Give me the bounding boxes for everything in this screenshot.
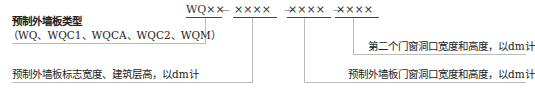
leader-horizontal-width-height <box>12 82 253 83</box>
opening-label: 预制外墙板门窗洞口宽度和高度，以dm计 <box>348 68 535 81</box>
type-options: （WQ、WQC1、WQCA、WQC2、WQM） <box>8 29 221 42</box>
leader-vertical-width-height <box>252 18 253 82</box>
width-height-label: 预制外墙板标志宽度、建筑层高，以dm计 <box>12 68 199 81</box>
leader-vertical-second-opening <box>353 18 354 54</box>
type-title: 预制外墙板类型 <box>12 15 82 28</box>
underline-second-opening <box>335 17 379 18</box>
code-segment-opening: ×××× <box>288 3 325 16</box>
leader-horizontal-second-opening <box>353 54 526 55</box>
second-opening-label: 第二个门窗洞口宽度和高度，以dm计 <box>368 40 535 53</box>
underline-width-height <box>233 17 277 18</box>
code-segment-width-height: ×××× <box>234 3 271 16</box>
code-segment-second-opening: ×××× <box>336 3 373 16</box>
leader-vertical-opening <box>304 18 305 82</box>
underline-type <box>186 17 222 18</box>
leader-horizontal-type <box>12 43 206 44</box>
underline-opening <box>287 17 331 18</box>
leader-horizontal-opening <box>304 82 526 83</box>
code-separator: — <box>219 3 230 16</box>
